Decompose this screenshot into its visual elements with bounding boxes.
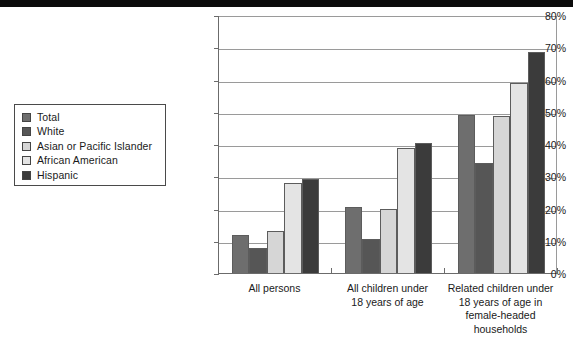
y-axis-tick-mark [214,145,219,146]
y-axis-tick-mark [214,16,219,17]
top-black-band [0,0,573,7]
bar-chart: 0%10%20%30%40%50%60%70%80%All personsAll… [181,10,566,290]
y-axis-tick-label: 50% [533,108,566,118]
bar [458,115,476,273]
y-axis-tick-mark [214,210,219,211]
x-axis-tick-mark [557,268,558,274]
legend-swatch-icon-african-american [22,156,31,165]
bar-series-container [219,17,556,273]
bar [267,231,285,273]
x-axis-tick-mark [218,268,219,274]
bar [475,163,493,273]
legend-label-asian-or-pacific-islander: Asian or Pacific Islander [37,141,152,152]
bar [362,239,380,273]
legend-swatch-icon-total [22,113,31,122]
legend-swatch-icon-hispanic [22,171,31,180]
y-axis-tick-label: 10% [533,237,566,247]
plot-area [218,16,557,274]
legend-swatch-icon-asian-or-pacific-islander [22,142,31,151]
x-axis-tick-mark [331,268,332,274]
legend-label-white: White [37,126,64,137]
legend-label-african-american: African American [37,155,118,166]
x-axis-tick-mark [444,268,445,274]
legend-item-total: Total [22,110,159,124]
bar [397,148,415,273]
y-axis-tick-label: 70% [533,43,566,53]
y-axis-tick-mark [214,81,219,82]
legend-item-african-american: African American [22,154,159,168]
x-axis-group-label: All persons [210,282,339,296]
y-axis-tick-label: 0% [533,269,566,279]
legend-item-white: White [22,125,159,139]
legend-item-asian-or-pacific-islander: Asian or Pacific Islander [22,139,159,153]
legend-item-hispanic: Hispanic [22,168,159,182]
bar [284,183,302,273]
bar [415,143,433,273]
legend-label-hispanic: Hispanic [37,170,78,181]
legend-label-total: Total [37,112,60,123]
bar [232,235,250,273]
bar [380,209,398,273]
y-axis-tick-mark [214,177,219,178]
y-axis-tick-label: 80% [533,11,566,21]
bar [302,179,320,273]
legend-swatch-icon-white [22,127,31,136]
y-axis-tick-label: 60% [533,76,566,86]
x-axis-group-label: Related children under 18 years of age i… [436,282,565,336]
y-axis-tick-mark [214,113,219,114]
y-axis-tick-label: 20% [533,205,566,215]
bar [345,207,363,273]
bar [493,116,511,273]
x-axis-group-label: All children under 18 years of age [323,282,452,309]
y-axis-tick-mark [214,274,219,275]
bar [249,248,267,273]
y-axis-tick-mark [214,242,219,243]
y-axis-tick-label: 40% [533,140,566,150]
y-axis-tick-mark [214,48,219,49]
chart-legend: Total White Asian or Pacific Islander Af… [14,104,166,186]
y-axis-tick-label: 30% [533,172,566,182]
bar [510,83,528,273]
